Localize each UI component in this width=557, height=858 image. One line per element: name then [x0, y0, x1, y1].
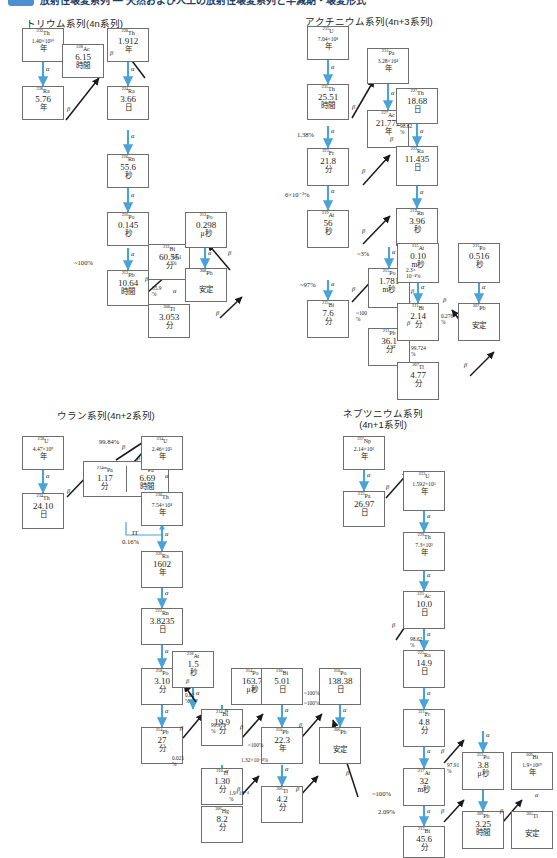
nuclide-ra-224[interactable]: 224Ra 3.66 日 [107, 86, 149, 120]
nuclide-tl-208[interactable]: 208Tl 3.053 分 [148, 304, 190, 338]
nuclide-pa-234[interactable]: 234Pa 6.69 時間 [127, 466, 169, 492]
nuclide-bi-212[interactable]: 212Bi 60.55 分 [148, 244, 190, 280]
nuclide-at-219[interactable]: 219At 56 秒 [307, 210, 349, 248]
nuclide-at-218[interactable]: 218At 1.5 秒 [172, 651, 214, 688]
nuclide-u-234[interactable]: 234U 2.46×10⁵ 年 [141, 436, 183, 470]
alpha-label: α [421, 284, 424, 290]
alpha-label: α [392, 249, 395, 255]
beta-label: β [186, 678, 189, 684]
alpha-label: α [131, 133, 134, 139]
alpha-label: α [392, 343, 395, 349]
nuclide-po-213[interactable]: 213Po 3.8 μ秒 [462, 752, 504, 790]
nuclide-th-229[interactable]: 229Th 7.3×10³ 年 [403, 532, 445, 571]
alpha-label: α [427, 808, 430, 814]
beta-label: β [464, 362, 467, 368]
nuclide-th-232[interactable]: 232Th 1.40×10¹⁰ 年 [22, 28, 64, 62]
nuclide-pb-212[interactable]: 212Pb 10.64 時間 [107, 270, 149, 306]
nuclide-unit: 分 [421, 844, 428, 853]
nuclide-unit: 年 [40, 104, 47, 113]
nuclide-bi-215[interactable]: 215Bi 7.6 分 [307, 300, 349, 338]
branch-pct: ~100% [74, 259, 93, 266]
nuclide-ra-228[interactable]: 228Ra 5.76 年 [22, 86, 64, 120]
nuclide-unit: 時間 [76, 62, 90, 71]
nuclide-rn-220[interactable]: 220Rn 55.6 秒 [107, 154, 149, 188]
nuclide-rn-222[interactable]: 222Rn 3.8235 日 [141, 608, 183, 645]
nuclide-th-230[interactable]: 230Th 7.54×10⁴ 年 [141, 492, 183, 526]
nuclide-po-216[interactable]: 216Po 0.145 秒 [107, 212, 149, 246]
nuclide-tl-207[interactable]: 207Tl 4.77 分 [397, 362, 439, 400]
nuclide-hg-206[interactable]: 206Hg 8.2 分 [201, 806, 243, 843]
branch-pct: 97.91 % [447, 762, 459, 774]
nuclide-ra-223[interactable]: 223Ra 11.435 日 [396, 146, 438, 186]
beta-label: β [362, 168, 365, 174]
nuclide-at-217[interactable]: 217At 32 m秒 [403, 768, 445, 806]
beta-label: β [407, 320, 410, 326]
nuclide-fr-221[interactable]: 221Fr 4.8 分 [403, 709, 445, 747]
branch-pct: 99.84% [99, 438, 119, 445]
nuclide-th-231[interactable]: 231Th 25.51 時間 [307, 84, 349, 120]
nuclide-unit: 日 [279, 686, 286, 695]
nuclide-ac-225[interactable]: 225Ac 10.0 日 [403, 591, 445, 629]
branch-pct: ~100 % [356, 310, 367, 322]
alpha-label: α [427, 572, 430, 578]
alpha-label: α [367, 472, 370, 478]
nuclide-ra-225[interactable]: 225Ra 14.9 日 [403, 650, 445, 688]
beta-label: β [390, 136, 393, 142]
beta-label: β [240, 724, 243, 730]
nuclide-unit: 分 [415, 380, 422, 389]
alpha-label: α [165, 708, 168, 714]
nuclide-th-234[interactable]: 234Th 24.10 日 [22, 493, 64, 529]
beta-label: β [441, 808, 444, 814]
branch-pct: 99.724 % [411, 345, 426, 357]
nuclide-bi-209[interactable]: 209Bi 1.9×10¹⁹ 年 [511, 752, 553, 790]
nuclide-pa-231[interactable]: 231Pa 3.28×10⁴ 年 [367, 48, 409, 84]
nuclide-fr-223[interactable]: 223Fr 21.8 分 [307, 148, 349, 186]
nuclide-unit: 安定 [525, 830, 539, 839]
nuclide-unit: 秒 [190, 669, 197, 678]
nuclide-ac-228[interactable]: 228Ac 6.15 時間 [62, 44, 104, 78]
nuclide-po-211[interactable]: 211Po 0.516 秒 [458, 243, 500, 283]
alpha-label: α [165, 531, 168, 537]
nuclide-bi-213[interactable]: 213Bi 45.6 分 [403, 826, 445, 858]
nuclide-unit: 年 [159, 509, 166, 518]
nuclide-unit: 分 [421, 727, 428, 736]
beta-label: β [122, 444, 125, 450]
nuclide-pb-207[interactable]: 207Pb 安定 [458, 303, 500, 341]
branch-pct: ~100% [248, 742, 264, 748]
nuclide-unit: 時間 [140, 483, 154, 492]
nuclide-rn-219[interactable]: 219Rn 3.96 秒 [396, 208, 438, 246]
nuclide-unit: m秒 [418, 786, 431, 795]
nuclide-unit: 年 [325, 43, 332, 52]
nuclide-np-237[interactable]: 237Np 2.14×10⁶ 年 [343, 436, 385, 470]
nuclide-unit: 年 [125, 46, 132, 55]
nuclide-pa-233[interactable]: 233Pa 26.97 日 [343, 491, 385, 527]
alpha-label: α [420, 189, 423, 195]
nuclide-po-212[interactable]: 212Po 0.298 μ秒 [185, 212, 227, 248]
nuclide-unit: 日 [421, 668, 428, 677]
alpha-label: α [173, 288, 176, 294]
nuclide-bi-211[interactable]: 211Bi 2.14 分 [397, 303, 439, 341]
nuclide-unit: 秒 [476, 261, 483, 270]
nuclide-u-235[interactable]: 235U 7.04×10⁸ 年 [307, 26, 349, 60]
nuclide-tl-205[interactable]: 205Tl 安定 [511, 811, 553, 849]
nuclide-unit: 日 [159, 626, 166, 635]
nuclide-u-233[interactable]: 233U 1.592×10⁵ 年 [403, 471, 445, 511]
nuclide-pb-206[interactable]: 206Pb 安定 [319, 727, 361, 764]
nuclide-unit: 安定 [199, 286, 213, 295]
nuclide-ra-226[interactable]: 226Ra 1602 年 [141, 551, 183, 588]
nuclide-bi-210[interactable]: 210Bi 5.01 日 [261, 668, 303, 705]
nuclide-unit: μ秒 [477, 770, 488, 779]
beta-label: β [299, 722, 302, 728]
alpha-label: α [482, 284, 485, 290]
nuclide-isotope: 205Tl [526, 813, 538, 820]
nuclide-u-238[interactable]: 238U 4.47×10⁹ 年 [22, 436, 64, 470]
nuclide-th-227[interactable]: 227Th 18.68 日 [396, 88, 438, 124]
nuclide-po-210[interactable]: 210Po 138.38 日 [319, 668, 361, 705]
nuclide-pb-208[interactable]: 208Pb 安定 [185, 268, 227, 302]
alpha-label: α [427, 690, 430, 696]
nuclide-unit: 分 [279, 804, 286, 813]
nuclide-pb-209[interactable]: 209Pb 3.25 時間 [462, 811, 504, 849]
nuclide-pa-234m[interactable]: 234mPa 1.17 分 [84, 466, 127, 492]
alpha-label: α [535, 792, 538, 798]
nuclide-th-228[interactable]: 228Th 1.912 年 [107, 28, 149, 62]
